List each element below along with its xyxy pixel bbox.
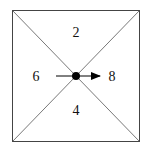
- region-label-right: 8: [109, 69, 116, 84]
- diagram-canvas: 2 6 8 4: [0, 0, 147, 151]
- region-label-left: 6: [33, 69, 40, 84]
- center-dot: [72, 72, 80, 80]
- region-label-top: 2: [73, 25, 80, 40]
- region-label-bottom: 4: [73, 103, 80, 118]
